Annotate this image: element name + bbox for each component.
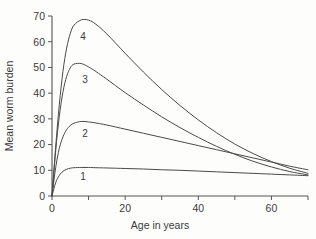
y-tick-label: 70	[33, 10, 45, 22]
curve-label-4: 4	[80, 31, 86, 42]
curve-4	[52, 19, 308, 196]
y-tick-label: 20	[33, 138, 45, 150]
y-axis-tick-labels: 010203040506070	[33, 10, 45, 202]
y-axis-title: Mean worm burden	[3, 61, 15, 152]
curve-2	[52, 121, 308, 196]
x-tick-label: 60	[266, 202, 278, 214]
data-curves	[52, 19, 308, 196]
x-axis-ticks	[52, 196, 308, 200]
curve-labels: 1234	[80, 31, 88, 182]
y-tick-label: 60	[33, 36, 45, 48]
curve-3	[52, 63, 308, 196]
y-axis-group: 010203040506070	[33, 10, 52, 202]
y-tick-label: 40	[33, 87, 45, 99]
x-tick-label: 20	[119, 202, 131, 214]
curve-1	[52, 167, 308, 196]
x-axis-tick-labels: 0204060	[49, 202, 277, 214]
worm-burden-line-chart: 010203040506070 0204060 1234 Age in year…	[0, 0, 316, 239]
y-tick-label: 0	[39, 190, 45, 202]
curve-label-3: 3	[82, 74, 88, 85]
x-axis-title: Age in years	[131, 219, 189, 231]
y-tick-label: 50	[33, 61, 45, 73]
y-tick-label: 30	[33, 113, 45, 125]
x-tick-label: 40	[192, 202, 204, 214]
x-axis-group: 0204060	[49, 196, 308, 214]
y-axis-ticks	[48, 16, 52, 196]
y-tick-label: 10	[33, 164, 45, 176]
curve-label-1: 1	[80, 171, 86, 182]
curve-label-2: 2	[82, 128, 88, 139]
chart-container: 010203040506070 0204060 1234 Age in year…	[0, 0, 316, 239]
x-tick-label: 0	[49, 202, 55, 214]
